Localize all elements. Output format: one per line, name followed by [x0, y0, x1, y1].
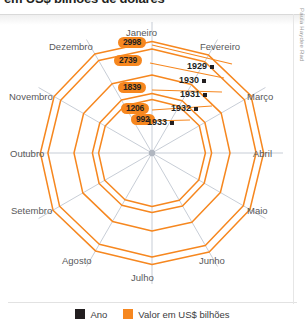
chart-legend: Ano Valor em US$ bilhões: [0, 303, 305, 323]
radar-center-hub: [149, 150, 155, 156]
year-label-1933-text: 1933: [147, 117, 167, 127]
axis-label-fevereiro: Fevereiro: [200, 41, 240, 52]
year-label-1932-text: 1932: [171, 103, 191, 113]
year-label-1929: 1929: [187, 62, 214, 71]
axis-label-marco: Março: [247, 91, 273, 102]
axis-label-julho: Julho: [131, 272, 154, 283]
year-marker-icon: [202, 79, 206, 83]
legend-item-ano: Ano: [75, 309, 107, 320]
axis-label-agosto: Agosto: [62, 255, 92, 266]
year-label-1932: 1932: [171, 104, 198, 113]
headline-strip: em US$ bilhões de dolares: [0, 0, 305, 14]
legend-item-valor: Valor em US$ bilhões: [123, 309, 229, 320]
legend-label-ano: Ano: [90, 309, 107, 320]
credit-text: Paula Haydee Rad: [299, 8, 305, 62]
axis-label-junho: Junho: [199, 255, 225, 266]
axis-label-outubro: Outubro: [10, 148, 44, 159]
year-label-1930: 1930: [179, 76, 206, 85]
year-label-1931: 1931: [180, 90, 207, 99]
axis-label-novembro: Novembro: [9, 91, 53, 102]
chart-panel: Janeiro Fevereiro Março Abril Maio Junho…: [0, 14, 305, 318]
year-label-1930-text: 1930: [179, 75, 199, 85]
year-marker-icon: [203, 93, 207, 97]
year-label-1929-text: 1929: [187, 61, 207, 71]
value-pill-1932: 1206: [121, 103, 149, 114]
axis-label-setembro: Setembro: [11, 205, 52, 216]
value-pill-1931: 1839: [118, 82, 146, 93]
value-pill-1930: 2739: [114, 55, 142, 66]
axis-label-maio: Maio: [247, 205, 268, 216]
axis-label-abril: Abril: [253, 148, 272, 159]
year-label-1933: 1933: [147, 118, 174, 127]
value-pill-1929: 2998: [118, 37, 146, 48]
credit-divider: [293, 14, 294, 304]
year-marker-icon: [210, 65, 214, 69]
year-marker-icon: [194, 107, 198, 111]
axis-label-dezembro: Dezembro: [49, 41, 93, 52]
legend-swatch-ano-icon: [75, 309, 85, 319]
legend-swatch-valor-icon: [123, 309, 133, 319]
page-title: em US$ bilhões de dolares: [4, 0, 164, 6]
year-label-1931-text: 1931: [180, 89, 200, 99]
year-marker-icon: [170, 121, 174, 125]
legend-label-valor: Valor em US$ bilhões: [138, 309, 229, 320]
